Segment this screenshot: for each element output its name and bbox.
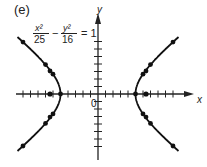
x-axis-label: x bbox=[197, 94, 202, 105]
curve-point bbox=[171, 144, 176, 149]
curve-point bbox=[148, 121, 153, 126]
eq-y-denominator: 16 bbox=[62, 34, 73, 45]
eq-x-denominator: 25 bbox=[34, 34, 45, 45]
curve-point bbox=[21, 144, 26, 149]
curve-point bbox=[144, 115, 149, 120]
eq-minus: − bbox=[52, 27, 58, 39]
curve-point bbox=[144, 69, 149, 74]
curve-point bbox=[21, 40, 26, 45]
focus-point bbox=[47, 91, 52, 96]
curve-point bbox=[43, 62, 48, 67]
eq-y-numerator: y² bbox=[63, 23, 71, 33]
curve-point bbox=[148, 62, 153, 67]
origin-label: 0 bbox=[91, 98, 97, 109]
curve-point bbox=[48, 69, 53, 74]
focus-point bbox=[143, 91, 148, 96]
hyperbola-chart bbox=[0, 0, 207, 167]
eq-rhs: = 1 bbox=[81, 27, 97, 39]
x-axis-arrow-icon bbox=[184, 91, 194, 97]
curve-point bbox=[48, 115, 53, 120]
curve-point bbox=[133, 92, 138, 97]
curve-point bbox=[43, 121, 48, 126]
y-axis-label: y bbox=[97, 4, 102, 15]
curve-point bbox=[171, 40, 176, 45]
eq-x-numerator: x² bbox=[35, 23, 43, 33]
curve-point bbox=[58, 92, 63, 97]
